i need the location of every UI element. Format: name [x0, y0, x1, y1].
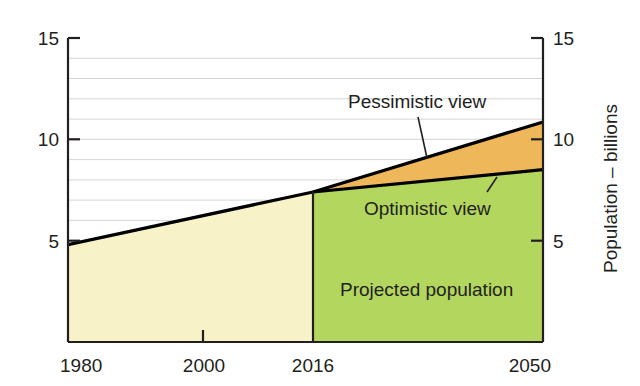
chart-canvas: 15 10 5 15 10 5 1980 2000 2016 2050 Popu…: [0, 0, 640, 386]
y-tick-label-left-15: 15: [38, 28, 59, 49]
y-tick-label-left-5: 5: [48, 231, 59, 252]
x-tick-label-2000: 2000: [183, 355, 225, 376]
x-tick-label-1980: 1980: [60, 355, 102, 376]
y-tick-label-right-10: 10: [553, 129, 574, 150]
y-tick-label-left-10: 10: [38, 129, 59, 150]
y-tick-label-right-5: 5: [553, 231, 564, 252]
y-axis-title: Population – billions: [600, 104, 621, 273]
x-tick-label-2050: 2050: [509, 355, 551, 376]
annotation-projected-label: Projected population: [340, 279, 513, 300]
annotation-pessimistic-label: Pessimistic view: [348, 91, 487, 112]
area-projected: [313, 170, 543, 342]
population-projection-chart: 15 10 5 15 10 5 1980 2000 2016 2050 Popu…: [0, 0, 640, 386]
annotation-optimistic-label: Optimistic view: [364, 198, 491, 219]
y-tick-label-right-15: 15: [553, 28, 574, 49]
x-tick-label-2016: 2016: [292, 355, 334, 376]
